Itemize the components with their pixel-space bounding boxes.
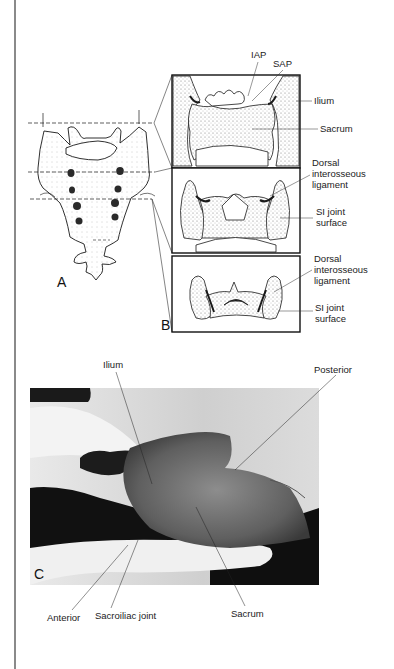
label-ilium-c: Ilium bbox=[103, 359, 123, 370]
label-sacroiliac-joint: Sacroiliac joint bbox=[95, 610, 156, 621]
label-anterior: Anterior bbox=[47, 612, 80, 623]
label-posterior: Posterior bbox=[314, 364, 352, 375]
panel-c-leader-lines bbox=[0, 0, 394, 669]
label-sacrum-c: Sacrum bbox=[231, 608, 264, 619]
